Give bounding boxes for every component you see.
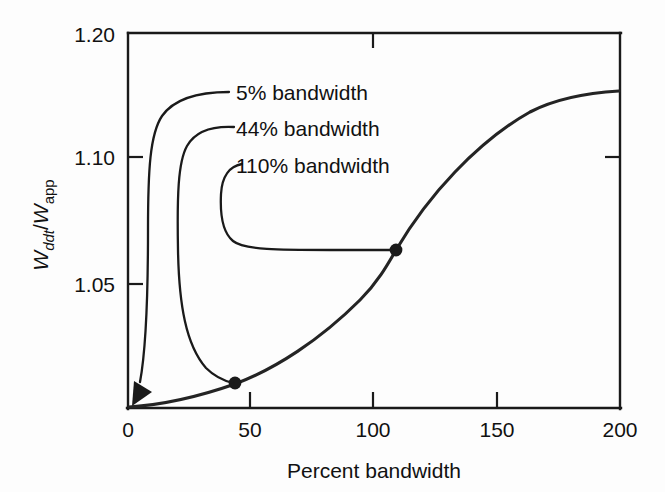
callout-label-44-percent: 44% bandwidth <box>236 117 380 140</box>
y-axis-title: Wddt/Wapp <box>29 179 57 270</box>
y-axis-title-numerator-subscript: ddt <box>40 229 57 251</box>
x-ticklabel-100: 100 <box>355 418 390 441</box>
y-axis-title-denominator-subscript: app <box>40 179 57 204</box>
y-ticklabel-1-05: 1.05 <box>74 273 115 296</box>
data-point-markers <box>229 244 403 390</box>
chart-canvas: 5% bandwidth 44% bandwidth 110% bandwidt… <box>0 0 665 492</box>
figure-container: 5% bandwidth 44% bandwidth 110% bandwidt… <box>0 0 665 492</box>
x-axis-ticks <box>250 392 497 408</box>
x-ticklabel-200: 200 <box>602 418 637 441</box>
leader-line-5-percent <box>140 92 229 382</box>
axes-frame <box>127 33 621 409</box>
x-axis-title: Percent bandwidth <box>287 459 461 482</box>
leader-arrowhead-5-percent <box>132 381 152 406</box>
y-axis-ticks <box>128 157 143 284</box>
x-ticklabel-50: 50 <box>238 418 261 441</box>
leader-line-44-percent <box>178 127 234 383</box>
y-axis-title-numerator-symbol: W <box>29 249 52 271</box>
svg-text:Wddt/Wapp: Wddt/Wapp <box>29 179 57 270</box>
x-ticklabel-0: 0 <box>122 418 134 441</box>
y-ticklabel-1-10: 1.10 <box>74 146 115 169</box>
y-axis-title-denominator-symbol: W <box>29 202 52 224</box>
x-ticklabel-150: 150 <box>479 418 514 441</box>
y-ticklabel-1-20: 1.20 <box>74 23 115 46</box>
callout-label-110-percent: 110% bandwidth <box>236 154 390 177</box>
callout-label-5-percent: 5% bandwidth <box>236 81 368 104</box>
